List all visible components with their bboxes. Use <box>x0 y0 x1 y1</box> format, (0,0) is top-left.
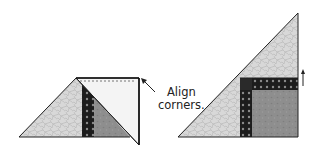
up-arrow-icon <box>301 69 305 86</box>
align-corners-annotation: Align corners. <box>158 86 205 112</box>
light-print-triangle <box>19 78 82 137</box>
align-arrow-icon <box>141 78 155 92</box>
left-figure <box>19 78 155 145</box>
quilt-diagram <box>0 0 315 154</box>
annotation-line-2: corners. <box>158 99 205 112</box>
medium-gray-square <box>252 90 298 137</box>
right-figure <box>178 13 305 137</box>
